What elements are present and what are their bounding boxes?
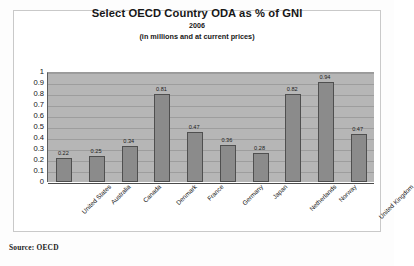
bar-value-label: 0.81 [156,86,167,92]
x-tick-label: Germany [241,183,265,207]
x-tick-label: Norway [337,183,357,203]
x-axis: United StatesAustraliaCanadaDenmarkFranc… [47,183,374,235]
y-axis: 10.90.80.70.60.50.40.30.20.10 [3,72,44,182]
bar-france [187,132,203,182]
title-block: Select OECD Country ODA as % of GNI 2006… [0,7,394,42]
y-tick-label: 0.4 [4,134,44,142]
x-tick-label: Denmark [175,183,198,206]
x-tick-label: Australia [109,183,132,206]
bar-denmark [154,94,170,182]
bar-value-label: 0.22 [58,150,69,156]
x-tick-label: France [206,183,225,202]
y-tick-label: 0.3 [4,145,44,153]
bar-japan [253,153,269,182]
bar-germany [220,145,236,182]
y-tick-label: 0.1 [4,167,44,175]
x-tick-label: United Kingdom [377,183,414,220]
bar-value-label: 0.36 [221,137,232,143]
bar-value-label: 0.28 [254,145,265,151]
x-tick-label: Netherlands [308,183,337,212]
y-tick-label: 0.5 [4,123,44,131]
bar-value-label: 0.47 [189,124,200,130]
chart-units-note: (in millions and at current prices) [0,32,394,42]
y-tick-label: 0 [4,178,44,186]
bar-australia [89,156,105,182]
bar-value-label: 0.82 [287,86,298,92]
bar-value-label: 0.34 [123,138,134,144]
chart-title: Select OECD Country ODA as % of GNI [0,7,394,20]
x-tick-label: United States [81,183,113,215]
bar-canada [122,146,138,182]
y-tick-label: 0.6 [4,112,44,120]
bar-united-states [56,158,72,182]
y-tick-label: 0.2 [4,156,44,164]
y-tick-label: 0.9 [4,79,44,87]
x-tick-label: Japan [271,183,288,200]
source-note: Source: OECD [9,243,59,252]
x-tick-label: Canada [141,183,162,204]
bar-norway [318,82,334,182]
plot-area [47,72,374,182]
y-tick-label: 1 [4,68,44,76]
bar-value-label: 0.25 [91,148,102,154]
bar-value-label: 0.47 [352,126,363,132]
plot-wrap: 0.220.250.340.810.470.360.280.820.940.47 [47,72,374,182]
y-tick-label: 0.7 [4,101,44,109]
bar-netherlands [285,94,301,182]
chart-subtitle-year: 2006 [0,21,394,31]
bar-value-label: 0.94 [319,74,330,80]
y-tick-label: 0.8 [4,90,44,98]
bar-united-kingdom [351,134,367,182]
